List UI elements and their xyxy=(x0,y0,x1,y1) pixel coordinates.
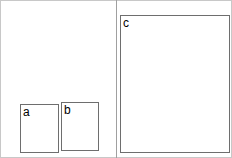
box-a-label: a xyxy=(23,105,30,119)
box-b-label: b xyxy=(64,103,71,117)
box-b: b xyxy=(61,102,99,151)
box-a: a xyxy=(20,104,59,153)
box-c-label: c xyxy=(123,16,129,30)
box-c: c xyxy=(120,15,230,153)
panel-divider xyxy=(116,0,117,158)
